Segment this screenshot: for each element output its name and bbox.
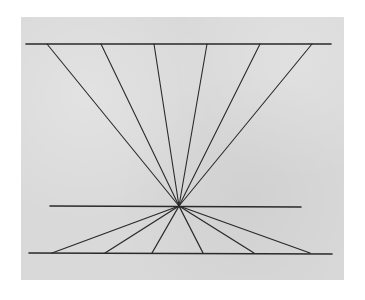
upper-fan-line	[154, 44, 179, 206]
bottom-horizontal-line	[29, 253, 332, 254]
upper-fan-line	[179, 44, 207, 206]
lower-fan-line	[179, 206, 310, 253]
lower-fan-line	[152, 206, 179, 253]
lower-fan-lines	[52, 206, 310, 253]
upper-fan-lines	[47, 44, 312, 206]
upper-fan-line	[179, 44, 260, 206]
upper-fan-line	[179, 44, 312, 206]
radiating-lines-diagram	[0, 0, 365, 300]
